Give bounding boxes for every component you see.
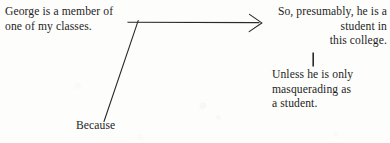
premise-text: George is a member of one of my classes.	[5, 5, 135, 34]
because-diagonal-line	[104, 21, 138, 122]
because-label: Because	[76, 119, 146, 134]
argument-diagram: George is a member of one of my classes.…	[0, 0, 390, 143]
conclusion-text: So, presumably, he is a student in this …	[258, 5, 387, 49]
qualifier-text: Unless he is only masquerading as a stud…	[272, 68, 388, 112]
